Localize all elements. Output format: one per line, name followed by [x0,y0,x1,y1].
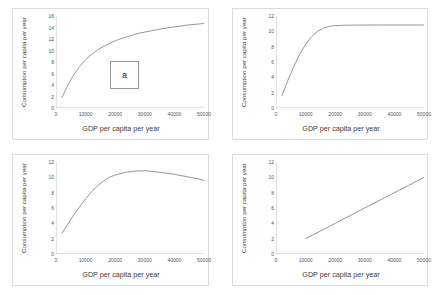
data-curve-c [62,171,204,233]
y-tick-label: 4 [42,82,54,88]
y-tick-label: 4 [262,74,274,80]
x-tick-label: 0 [45,111,67,117]
chart-panel-b: Consumption per capita per year GDP per … [222,0,443,148]
y-tick-label: 4 [262,220,274,226]
y-tick-label: 4 [42,220,54,226]
x-tick-label: 40000 [383,257,405,263]
y-tick-label: 14 [42,25,54,31]
x-tick-label: 0 [265,111,287,117]
y-tick-label: 10 [262,28,274,34]
y-tick-label: 10 [262,174,274,180]
data-curve-b [282,25,424,96]
y-tick-label: 12 [42,159,54,165]
y-tick-label: 8 [42,59,54,65]
x-tick-label: 30000 [354,257,376,263]
y-tick-label: 6 [262,59,274,65]
x-tick-label: 10000 [75,257,97,263]
x-tick-label: 10000 [295,257,317,263]
x-tick-label: 20000 [104,257,126,263]
x-axis-label-b: GDP per capita per year [266,124,416,133]
x-tick-label: 50000 [413,257,435,263]
x-tick-label: 20000 [104,111,126,117]
figure-grid: Consumption per capita per year GDP per … [0,0,443,295]
axes-b [276,16,424,108]
plot-svg-d [276,162,424,254]
y-tick-label: 10 [42,174,54,180]
y-axis-label-d: Consumption per capita per year [240,160,256,256]
x-tick-label: 30000 [134,111,156,117]
y-tick-label: 6 [42,205,54,211]
x-tick-label: 10000 [75,111,97,117]
y-tick-label: 8 [262,44,274,50]
chart-panel-d: Consumption per capita per year GDP per … [222,148,443,295]
plot-area-c [56,162,204,254]
y-tick-label: 10 [42,48,54,54]
x-axis-label-a: GDP per capita per year [46,124,196,133]
y-axis-label-a: Consumption per capita per year [20,14,36,110]
y-tick-label: 8 [262,190,274,196]
x-tick-label: 40000 [163,111,185,117]
x-tick-label: 20000 [324,257,346,263]
x-tick-label: 0 [265,257,287,263]
plot-svg-b [276,16,424,108]
x-tick-label: 50000 [193,111,215,117]
y-tick-label: 2 [262,90,274,96]
y-axis-label-c: Consumption per capita per year [20,160,36,256]
plot-area-d [276,162,424,254]
x-tick-label: 40000 [383,111,405,117]
x-tick-label: 40000 [163,257,185,263]
y-tick-label: 2 [262,236,274,242]
x-tick-label: 30000 [134,257,156,263]
panel-tag-a: a [110,61,139,89]
y-tick-label: 12 [262,159,274,165]
y-tick-label: 2 [42,94,54,100]
y-axis-label-b: Consumption per capita per year [240,14,256,110]
x-tick-label: 50000 [413,111,435,117]
x-tick-label: 10000 [295,111,317,117]
y-tick-label: 6 [42,71,54,77]
y-tick-label: 16 [42,13,54,19]
x-tick-label: 50000 [193,257,215,263]
y-tick-label: 8 [42,190,54,196]
x-tick-label: 30000 [354,111,376,117]
y-tick-label: 12 [262,13,274,19]
y-tick-label: 12 [42,36,54,42]
plot-svg-c [56,162,204,254]
x-tick-label: 20000 [324,111,346,117]
chart-panel-c: Consumption per capita per year GDP per … [0,148,222,295]
x-axis-label-d: GDP per capita per year [266,270,416,279]
x-tick-label: 0 [45,257,67,263]
x-axis-label-c: GDP per capita per year [46,270,196,279]
y-tick-label: 2 [42,236,54,242]
plot-area-b [276,16,424,108]
data-curve-d [306,177,424,238]
axes-d [276,162,424,254]
chart-panel-a: Consumption per capita per year GDP per … [0,0,222,148]
y-tick-label: 6 [262,205,274,211]
